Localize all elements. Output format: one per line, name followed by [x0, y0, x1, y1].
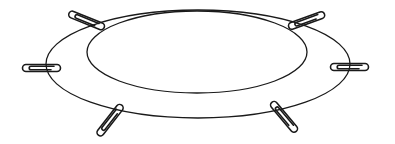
paperclip-top-right-icon — [288, 11, 326, 31]
illustration-svg — [0, 0, 395, 144]
ring-with-paperclips-illustration — [0, 0, 395, 144]
paperclip-left-icon — [23, 65, 61, 72]
inner-ring-ellipse — [87, 11, 307, 93]
paperclip-bottom-right-icon — [269, 100, 299, 134]
